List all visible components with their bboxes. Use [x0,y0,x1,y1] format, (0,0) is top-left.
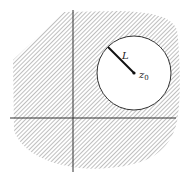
center-label-subscript: 0 [144,74,148,82]
complex-plane-diagram: L z0 [0,0,194,180]
radius-label: L [121,50,129,61]
hatched-region [13,11,180,169]
center-point [132,71,135,74]
